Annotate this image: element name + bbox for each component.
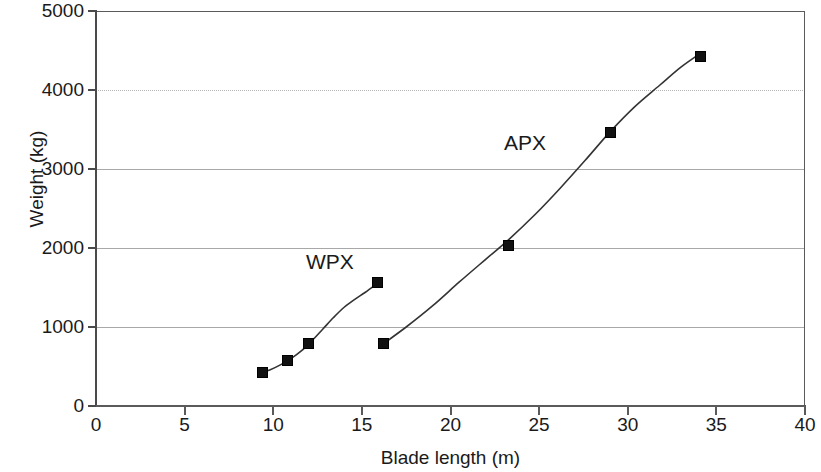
y-tick-label: 4000 xyxy=(12,79,84,101)
x-tick-mark xyxy=(627,406,629,415)
plot-border-top xyxy=(96,11,805,12)
x-tick-mark xyxy=(804,406,806,415)
y-tick-label: 5000 xyxy=(12,0,84,22)
x-tick-mark xyxy=(538,406,540,415)
x-tick-label: 35 xyxy=(686,414,746,436)
data-point-apx xyxy=(378,338,389,349)
data-point-wpx xyxy=(282,355,293,366)
data-point-apx xyxy=(503,240,514,251)
data-point-apx xyxy=(605,127,616,138)
x-tick-label: 25 xyxy=(509,414,569,436)
series-label-apx: APX xyxy=(504,131,546,155)
series-label-wpx: WPX xyxy=(306,250,354,274)
x-tick-mark xyxy=(715,406,717,415)
x-tick-mark xyxy=(272,406,274,415)
x-tick-mark xyxy=(361,406,363,415)
x-tick-label: 20 xyxy=(421,414,481,436)
data-point-apx xyxy=(695,51,706,62)
x-axis-title: Blade length (m) xyxy=(96,447,805,469)
y-tick-label: 2000 xyxy=(12,237,84,259)
plot-border-right xyxy=(804,11,805,406)
y-tick-label: 3000 xyxy=(12,158,84,180)
x-tick-mark xyxy=(184,406,186,415)
y-tick-label: 1000 xyxy=(12,316,84,338)
data-point-wpx xyxy=(372,277,383,288)
x-tick-label: 10 xyxy=(243,414,303,436)
data-point-wpx xyxy=(257,367,268,378)
data-point-wpx xyxy=(303,338,314,349)
chart-figure: Weight (kg) Blade length (m) 01000200030… xyxy=(0,0,821,472)
x-tick-label: 15 xyxy=(332,414,392,436)
x-tick-label: 0 xyxy=(66,414,126,436)
y-axis-line xyxy=(95,11,97,407)
x-tick-mark xyxy=(450,406,452,415)
x-axis-line xyxy=(96,405,806,407)
x-tick-label: 5 xyxy=(155,414,215,436)
plot-area xyxy=(96,11,805,406)
x-tick-label: 30 xyxy=(598,414,658,436)
x-tick-label: 40 xyxy=(775,414,821,436)
